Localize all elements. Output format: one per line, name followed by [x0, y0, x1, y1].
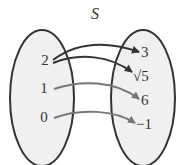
range-element-sqrt5: √5 — [133, 68, 149, 84]
relation-title: S — [91, 5, 99, 22]
range-element-3: 3 — [141, 44, 149, 60]
range-element-6: 6 — [141, 92, 149, 108]
range-element-neg1: −1 — [136, 116, 152, 132]
domain-element-1: 1 — [40, 80, 48, 96]
domain-element-2: 2 — [41, 52, 49, 68]
domain-set-ellipse — [10, 30, 74, 165]
domain-element-0: 0 — [40, 109, 48, 125]
relation-diagram: S 2 1 0 3 √5 6 −1 — [0, 0, 187, 165]
